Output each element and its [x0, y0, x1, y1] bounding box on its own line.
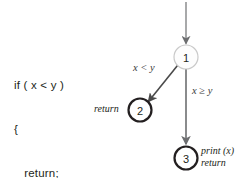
node-3-annotation-return: return — [201, 157, 226, 168]
edge-label-greater-equal: x ≥ y — [191, 85, 213, 96]
node-2-annotation-return: return — [94, 103, 119, 114]
control-flow-graph: 1 2 3 x < y x ≥ y return print (x) retur… — [0, 0, 250, 178]
edge-label-less-than: x < y — [132, 62, 155, 73]
figure-canvas: if ( x < y ) { return; } print (x); retu… — [0, 0, 250, 178]
node-3-annotation-print: print (x) — [200, 145, 235, 157]
graph-node-2-number: 2 — [137, 105, 143, 117]
graph-node-1-number: 1 — [183, 52, 189, 64]
graph-node-3-number: 3 — [183, 153, 189, 165]
